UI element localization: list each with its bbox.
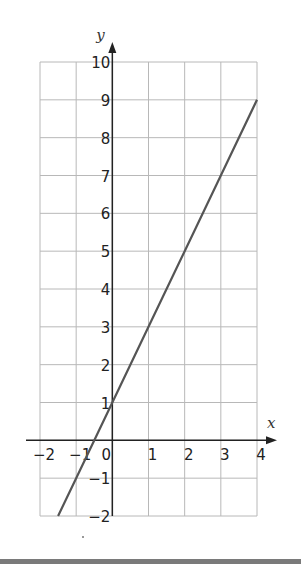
line-chart: −2−101234−2−112345678910 x y [0, 0, 301, 560]
y-axis-arrow-icon [108, 42, 116, 53]
x-tick-label: 4 [256, 446, 266, 464]
y-tick-label: 10 [91, 54, 110, 72]
x-axis-arrow-icon [266, 436, 277, 444]
tick-labels: −2−101234−2−112345678910 [33, 54, 266, 526]
y-tick-label: −1 [88, 470, 110, 488]
y-tick-label: 9 [101, 92, 111, 110]
x-tick-label: −2 [33, 446, 55, 464]
x-tick-label: 2 [184, 446, 194, 464]
x-tick-label: 0 [102, 446, 112, 464]
y-tick-label: 5 [101, 243, 111, 261]
x-axis-label: x [267, 414, 276, 432]
y-tick-label: 3 [101, 319, 111, 337]
y-tick-label: 4 [101, 281, 111, 299]
x-tick-label: 3 [220, 446, 230, 464]
y-tick-label: −2 [88, 508, 110, 526]
stray-dot [82, 536, 84, 538]
x-tick-label: 1 [148, 446, 158, 464]
y-tick-label: 8 [101, 130, 111, 148]
y-axis-label: y [95, 26, 105, 44]
y-tick-label: 2 [101, 357, 111, 375]
y-tick-label: 7 [101, 168, 111, 186]
axes [26, 42, 277, 516]
y-tick-label: 6 [101, 205, 111, 223]
bottom-divider-bar [0, 559, 301, 564]
